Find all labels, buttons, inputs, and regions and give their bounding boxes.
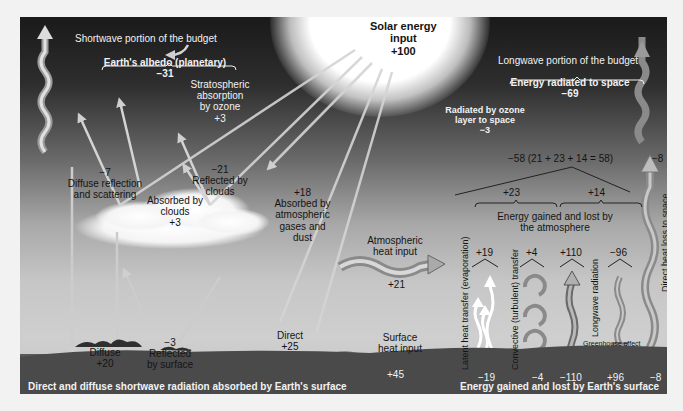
sum-equation: −58 (21 + 23 + 14 = 58) xyxy=(508,153,613,164)
energy-budget-diagram: Solar energyinput+100 Shortwave portion … xyxy=(20,17,667,394)
energy-radiated-label: Energy radiated to space−69 xyxy=(490,77,650,99)
sun-label: Solar energyinput+100 xyxy=(370,20,437,57)
atmospheric-heat-label: Atmosphericheat input xyxy=(360,235,430,257)
gain-14: +14 xyxy=(588,187,605,198)
surface-heat-value: +45 xyxy=(387,369,404,380)
direct-loss-value: −8 xyxy=(652,153,663,164)
diffuse-label: Diffuse+20 xyxy=(80,347,130,369)
albedo-label: Earth's albedo (planetary)−31 xyxy=(85,57,245,79)
reflected-by-clouds-label: −21Reflected byclouds xyxy=(185,164,255,198)
longwave-down-top-value: −96 xyxy=(610,247,627,258)
stratospheric-absorption-label: Stratosphericabsorptionby ozone+3 xyxy=(175,79,265,124)
gain-23: +23 xyxy=(503,187,520,198)
longwave-footer: Energy gained and lost by Earth's surfac… xyxy=(460,381,659,392)
reflected-by-surface-label: −3Reflectedby surface xyxy=(140,337,200,371)
direct-heat-loss-label: Direct heat loss to space xyxy=(660,193,667,292)
direct-label: Direct+25 xyxy=(270,330,310,352)
shortwave-header: Shortwave portion of the budget xyxy=(75,33,217,44)
absorbed-by-gases-label: +18Absorbed byatmosphericgases anddust xyxy=(265,187,340,243)
longwave-header: Longwave portion of the budget xyxy=(498,55,638,66)
convective-label: Convective (turbulent) transfer xyxy=(510,249,520,370)
longwave-up-top-value: +110 xyxy=(560,247,582,258)
convective-top-value: +4 xyxy=(526,247,537,258)
ozone-radiation-label: Radiated by ozonelayer to space−3 xyxy=(440,105,530,135)
latent-heat-label: Latent heat transfer (evaporation) xyxy=(460,236,470,370)
atmospheric-heat-value: +21 xyxy=(388,279,405,290)
atmosphere-energy-label: Energy gained and lost bythe atmosphere xyxy=(480,211,630,233)
longwave-radiation-label: Longwave radiation xyxy=(590,259,600,337)
latent-top-value: +19 xyxy=(476,247,493,258)
greenhouse-effect-label: Greenhouse effect xyxy=(583,340,640,348)
shortwave-footer: Direct and diffuse shortwave radiation a… xyxy=(28,381,347,392)
absorbed-by-clouds-label: Absorbed byclouds+3 xyxy=(135,195,215,229)
surface-heat-label: Surfaceheat input xyxy=(365,332,435,354)
